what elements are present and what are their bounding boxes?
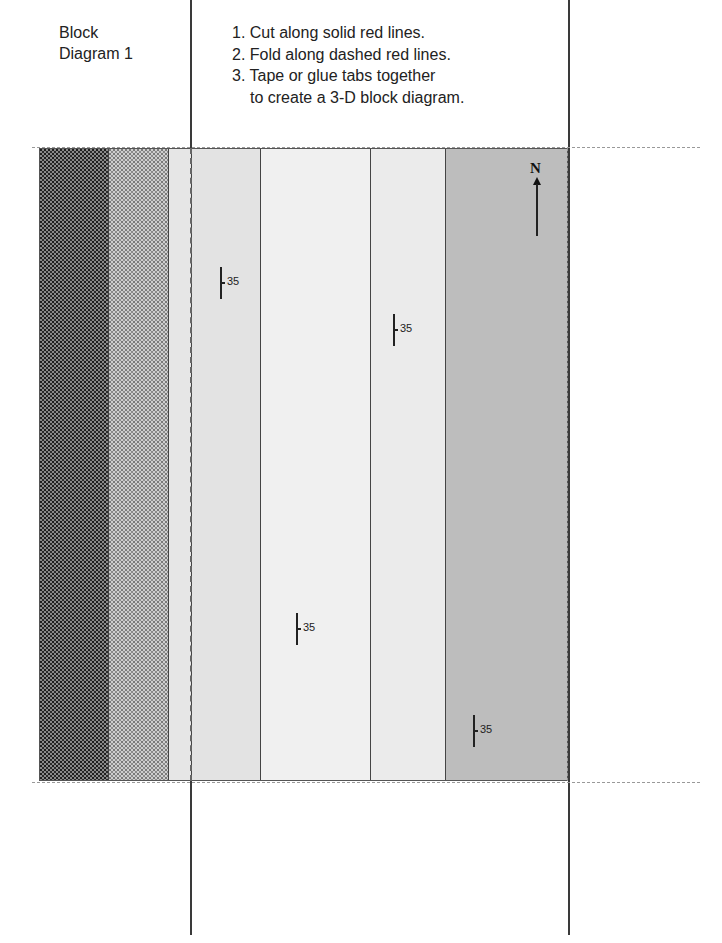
instruction-item: 2. Fold along dashed red lines. xyxy=(232,44,464,66)
north-arrow: N xyxy=(527,160,547,240)
strike-dip-symbol: 35 xyxy=(473,715,503,747)
instruction-text: Fold along dashed red lines. xyxy=(250,46,451,63)
instruction-item: 1. Cut along solid red lines. xyxy=(232,22,464,44)
rock-band-1 xyxy=(40,149,109,780)
north-label: N xyxy=(530,160,541,177)
dip-tick xyxy=(296,628,301,630)
rock-band-2 xyxy=(109,149,169,780)
rock-band-6 xyxy=(371,149,446,780)
instruction-number: 3. xyxy=(232,67,245,84)
instruction-number: 2. xyxy=(232,46,245,63)
instructions-list: 1. Cut along solid red lines. 2. Fold al… xyxy=(232,22,464,108)
block-diagram-top-face xyxy=(39,148,568,781)
instruction-continuation: to create a 3-D block diagram. xyxy=(232,87,464,109)
instruction-text: Tape or glue tabs together xyxy=(250,67,436,84)
cut-line-right xyxy=(568,0,570,935)
north-arrow-shaft xyxy=(536,184,538,236)
dip-tick xyxy=(393,329,398,331)
rock-band-4 xyxy=(192,149,261,780)
fold-line-vertical-left xyxy=(190,148,192,781)
dip-tick xyxy=(473,730,478,732)
rock-band-7 xyxy=(446,149,568,780)
rock-band-5 xyxy=(261,149,371,780)
diagram-title-line2: Diagram 1 xyxy=(59,43,133,64)
instruction-text: Cut along solid red lines. xyxy=(250,24,425,41)
rock-band-3 xyxy=(169,149,192,780)
strike-dip-symbol: 35 xyxy=(220,267,250,299)
diagram-title: Block Diagram 1 xyxy=(59,22,133,64)
dip-angle: 35 xyxy=(400,322,412,334)
fold-line-bottom xyxy=(32,782,700,783)
dip-angle: 35 xyxy=(303,621,315,633)
strike-dip-symbol: 35 xyxy=(296,613,326,645)
dip-tick xyxy=(220,282,225,284)
dip-angle: 35 xyxy=(480,723,492,735)
fold-line-vertical-right xyxy=(567,148,568,781)
dip-angle: 35 xyxy=(227,275,239,287)
diagram-title-line1: Block xyxy=(59,22,133,43)
strike-dip-symbol: 35 xyxy=(393,314,423,346)
instruction-item: 3. Tape or glue tabs together to create … xyxy=(232,65,464,108)
instruction-number: 1. xyxy=(232,24,245,41)
